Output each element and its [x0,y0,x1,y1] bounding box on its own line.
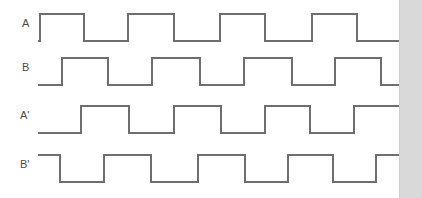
waveform-trace-a [38,14,403,41]
signal-label-a-prime: A' [20,110,29,121]
page-edge-strip [399,0,422,198]
waveform-canvas [0,0,422,198]
waveform-trace-b-prime [38,155,403,182]
signal-label-b: B [22,62,29,73]
timing-diagram-figure: A B A' B' [0,0,422,198]
waveform-traces [38,14,403,182]
waveform-trace-b [38,58,403,85]
signal-label-a: A [22,18,29,29]
signal-label-b-prime: B' [20,159,29,170]
waveform-trace-a-prime [38,106,403,133]
